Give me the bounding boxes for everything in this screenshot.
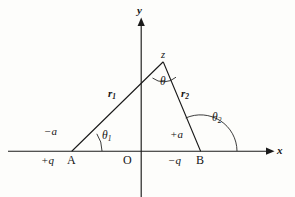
origin-label: O (123, 154, 132, 166)
point-label-z: z (161, 50, 165, 61)
segment-label-r2-subscript: 2 (185, 92, 189, 101)
distance-label-plus-a: +a (170, 129, 183, 140)
figure-canvas: x y O −a +q A +a −q B z r1 r2 θ θ1 θ2 (0, 0, 295, 197)
segment-r1 (72, 62, 163, 151)
segment-label-r2: r2 (181, 88, 189, 100)
angle-label-theta1-subscript: 1 (108, 134, 112, 143)
point-label-b: B (196, 154, 204, 166)
y-axis-arrowhead (138, 18, 145, 27)
charge-label-negative-q: −q (168, 155, 181, 166)
x-axis-arrowhead (266, 148, 275, 155)
angle-label-theta-apex: θ (160, 76, 166, 88)
figure-vector-layer (0, 0, 295, 197)
angle-label-theta2: θ2 (212, 112, 221, 124)
segment-label-r1-subscript: 1 (112, 92, 116, 101)
distance-label-minus-a: −a (44, 126, 57, 137)
angle-label-theta1: θ1 (102, 130, 111, 142)
point-label-a: A (67, 154, 76, 166)
x-axis-label: x (277, 145, 283, 156)
segment-label-r1: r1 (108, 88, 116, 100)
y-axis-label: y (137, 5, 142, 16)
angle-label-theta2-subscript: 2 (218, 116, 222, 125)
charge-label-positive-q: +q (41, 155, 54, 166)
